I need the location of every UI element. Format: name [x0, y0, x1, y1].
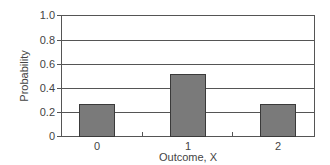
svg-text:1.0: 1.0	[40, 9, 55, 21]
x-axis-label: Outcome, X	[159, 151, 218, 163]
svg-text:2: 2	[275, 140, 281, 152]
bar-0	[80, 105, 115, 137]
svg-text:0.8: 0.8	[40, 34, 55, 46]
svg-text:0: 0	[49, 130, 55, 142]
y-axis-label: Probability	[18, 50, 30, 102]
svg-text:0.2: 0.2	[40, 106, 55, 118]
bar-1	[171, 75, 206, 137]
svg-text:0.6: 0.6	[40, 58, 55, 70]
bar-2	[261, 105, 296, 137]
svg-text:0: 0	[94, 140, 100, 152]
bars	[80, 75, 296, 137]
y-tick-labels: 0 0.2 0.4 0.6 0.8 1.0	[40, 9, 55, 142]
probability-bar-chart: 0 0.2 0.4 0.6 0.8 1.0 0 1 2 Outcome, X P…	[0, 0, 330, 165]
svg-text:0.4: 0.4	[40, 82, 55, 94]
